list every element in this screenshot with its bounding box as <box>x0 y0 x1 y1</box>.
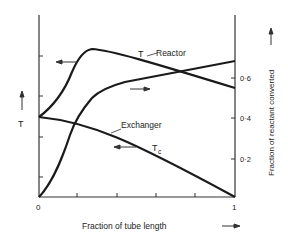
exchanger-leader <box>111 129 121 133</box>
tick-label-0-4: 0·4 <box>240 114 251 123</box>
x-axis-title: Fraction of tube length <box>82 221 167 231</box>
reactor-temperature-curve <box>39 49 235 117</box>
exchanger-label: Exchanger <box>121 120 162 130</box>
reactor-label: Reactor <box>156 48 186 58</box>
tick-label-0-2: 0·2 <box>240 155 251 164</box>
right-axis-title: Fraction of reactant converted <box>267 70 276 176</box>
x-end-label: 1 <box>232 203 237 212</box>
reactor-diagram: 0 1 T Fraction of tube length 0·6 0·4 0·… <box>0 0 288 246</box>
t-axis-label: T <box>18 119 24 129</box>
tick-label-0-6: 0·6 <box>240 74 251 83</box>
reactor-t-label: T <box>138 49 144 59</box>
tc-subscript: c <box>158 148 162 155</box>
origin-label: 0 <box>36 203 41 212</box>
